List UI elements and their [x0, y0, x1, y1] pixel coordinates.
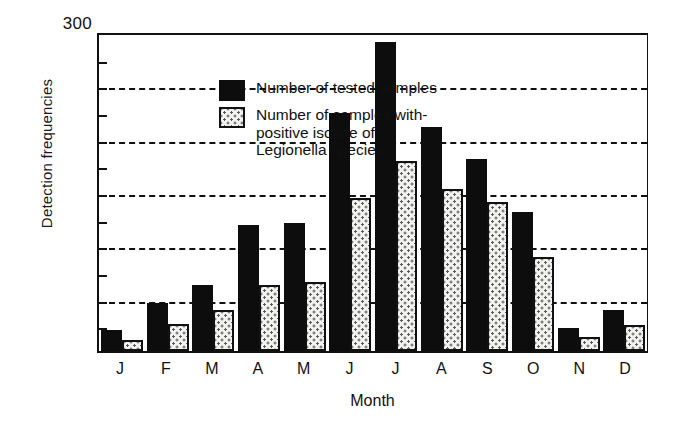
legend-swatch-dark-icon	[219, 80, 245, 101]
legend: Number of tested samples Number of sampl…	[219, 79, 519, 164]
y-axis-max-label: 300	[44, 14, 92, 34]
x-tick-label-5: J	[327, 360, 373, 384]
bar-group-d-11	[601, 35, 647, 351]
legend-label-positive: Number of samples with- positive isolate…	[256, 106, 427, 159]
bar-positive-7	[442, 189, 463, 351]
x-tick-label-3: A	[235, 360, 281, 384]
bar-positive-6	[396, 161, 417, 351]
legend-label-positive-line2: positive isolate of	[256, 124, 427, 142]
legend-label-positive-line1: Number of samples with-	[256, 106, 427, 124]
x-tick-label-0: J	[97, 360, 143, 384]
x-tick-label-11: D	[602, 360, 648, 384]
x-tick-label-7: A	[418, 360, 464, 384]
bar-positive-5	[350, 198, 371, 351]
bar-tested-4	[284, 223, 305, 351]
bar-positive-1	[168, 324, 189, 351]
bar-chart: Detection frequencies 300	[0, 0, 677, 434]
bar-group-f-1	[145, 35, 191, 351]
legend-label-tested: Number of tested samples	[256, 79, 437, 97]
bar-tested-2	[192, 285, 213, 351]
bar-positive-11	[624, 325, 645, 351]
bar-tested-3	[238, 225, 259, 351]
bar-positive-2	[213, 310, 234, 351]
x-tick-label-9: O	[510, 360, 556, 384]
bar-tested-1	[147, 303, 168, 351]
y-axis-title-wrap: Detection frequencies	[6, 90, 40, 320]
bar-positive-9	[533, 257, 554, 351]
bar-tested-9	[512, 212, 533, 351]
y-axis-title: Detection frequencies	[38, 44, 55, 264]
bar-positive-8	[487, 202, 508, 351]
x-axis-tick-labels: JFMAMJJASOND	[97, 360, 648, 384]
bar-positive-0	[122, 340, 143, 351]
bar-tested-11	[603, 310, 624, 351]
bar-positive-10	[579, 337, 600, 351]
plot-inner: Number of tested samples Number of sampl…	[99, 35, 647, 351]
plot-area: Number of tested samples Number of sampl…	[97, 33, 648, 353]
legend-item-positive: Number of samples with- positive isolate…	[219, 106, 519, 159]
bar-tested-10	[558, 328, 579, 351]
bar-group-n-10	[556, 35, 602, 351]
legend-swatch-stipple-icon	[219, 107, 245, 128]
x-tick-label-6: J	[373, 360, 419, 384]
x-tick-label-4: M	[281, 360, 327, 384]
bar-positive-3	[259, 285, 280, 351]
legend-label-positive-line3: Legionella species	[256, 141, 427, 159]
x-tick-label-8: S	[464, 360, 510, 384]
x-tick-label-1: F	[143, 360, 189, 384]
bar-tested-0	[101, 330, 122, 351]
legend-item-tested: Number of tested samples	[219, 79, 519, 101]
bar-positive-4	[305, 282, 326, 351]
x-axis-title: Month	[97, 392, 648, 410]
bar-group-j-0	[99, 35, 145, 351]
bar-tested-8	[466, 159, 487, 351]
x-tick-label-2: M	[189, 360, 235, 384]
x-tick-label-10: N	[556, 360, 602, 384]
